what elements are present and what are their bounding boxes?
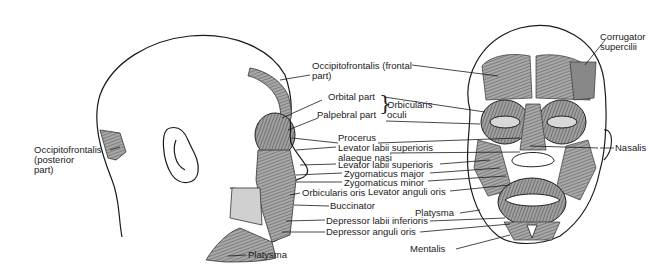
lateral-face-muscles	[256, 150, 296, 242]
label-corrugator-supercilii: Corrugator supercilii	[600, 32, 645, 52]
label-orbicularis-oculi: Orbicularis oculi	[387, 100, 432, 120]
label-buccinator: Buccinator	[330, 201, 375, 211]
label-mentalis: Mentalis	[410, 244, 445, 254]
label-levator-anguli-oris: Levator anguli oris	[368, 187, 446, 197]
label-occipitofrontalis-frontal: Occipitofrontalis (frontal part)	[312, 61, 412, 81]
label-depressor-anguli-oris: Depressor anguli oris	[326, 227, 416, 237]
label-depressor-labii-inferioris: Depressor labii inferioris	[326, 216, 428, 226]
label-line: part)	[312, 71, 412, 81]
label-orbital-part: Orbital part	[328, 92, 375, 102]
label-line: oculi	[387, 110, 432, 120]
label-line: supercilii	[600, 42, 645, 52]
label-occipitofrontalis-posterior: Occipitofrontalis (posterior part)	[34, 145, 102, 175]
label-nasalis: Nasalis	[615, 143, 646, 153]
label-orbicularis-oris: Orbicularis oris	[302, 188, 365, 198]
label-line: part)	[34, 165, 102, 175]
label-platysma-side: Platysma	[248, 250, 287, 260]
neck-band	[230, 188, 262, 225]
label-palpebral-part: Palpebral part	[317, 110, 376, 120]
